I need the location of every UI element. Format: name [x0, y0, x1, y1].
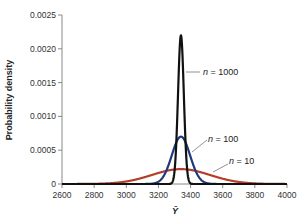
y-tick-label: 0.0025 — [30, 10, 56, 20]
y-tick-label: 0.0010 — [30, 111, 56, 121]
y-axis-ticks: 00.00050.00100.00150.00200.0025 — [30, 10, 62, 189]
annotation-label: n = 1000 — [203, 67, 238, 77]
annotation-leader-line — [192, 140, 207, 152]
x-tick-label: 2800 — [85, 190, 104, 200]
probability-density-chart: 00.00050.00100.00150.00200.0025 26002800… — [0, 0, 306, 224]
annotation-label: n = 10 — [229, 156, 254, 166]
x-axis-ticks: 26002800300032003400360038004000 — [53, 184, 297, 200]
y-tick-label: 0.0005 — [30, 145, 56, 155]
y-tick-label: 0 — [51, 179, 56, 189]
x-tick-label: 3800 — [245, 190, 264, 200]
x-tick-label: 3600 — [213, 190, 232, 200]
annotation-label: n = 100 — [208, 134, 238, 144]
x-tick-label: 3400 — [181, 190, 200, 200]
y-axis-title: Probability density — [4, 60, 14, 141]
x-axis-title: Ȳ — [172, 206, 179, 216]
x-tick-label: 3000 — [117, 190, 136, 200]
y-tick-label: 0.0015 — [30, 78, 56, 88]
y-tick-label: 0.0020 — [30, 44, 56, 54]
curve-annotations: n = 1000n = 100n = 10 — [186, 67, 254, 172]
x-tick-label: 4000 — [278, 190, 297, 200]
annotation-leader-line — [213, 164, 228, 172]
x-tick-label: 2600 — [53, 190, 72, 200]
x-tick-label: 3200 — [149, 190, 168, 200]
